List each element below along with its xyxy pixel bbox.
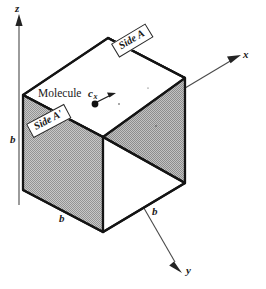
axis-label-z: z (15, 3, 19, 14)
velocity-component-label: cx (88, 88, 97, 99)
velocity-subscript: x (93, 92, 97, 101)
edge-label-b-left: b (10, 134, 16, 145)
axis-label-y: y (186, 265, 191, 276)
figure-root: z x y b b b Molecule Side A Side A' cx (0, 0, 266, 289)
axis-label-x: x (243, 49, 249, 60)
molecule-label: Molecule (38, 88, 81, 100)
edge-label-b-bottom-right: b (152, 206, 158, 217)
z-axis (15, 14, 22, 205)
edge-label-b-bottom-left: b (59, 213, 65, 224)
